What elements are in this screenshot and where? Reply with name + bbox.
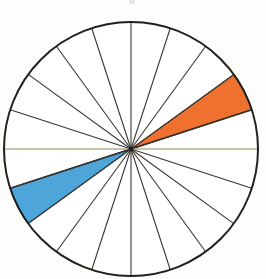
rose-diagram-canvas [0, 0, 266, 279]
center-hub [129, 147, 134, 152]
figure-root: g [0, 0, 266, 279]
